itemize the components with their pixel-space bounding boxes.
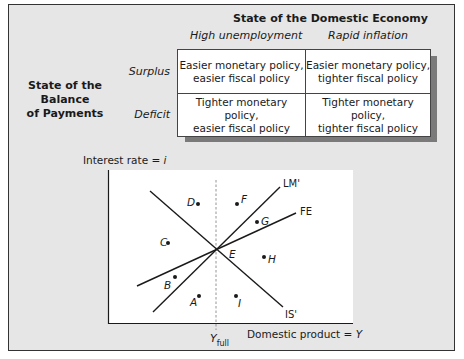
point-c-label: C — [160, 236, 168, 248]
point-d-dot — [196, 202, 200, 206]
point-h-label: H — [268, 253, 276, 265]
x-axis-var: Y — [356, 328, 364, 340]
fe-curve — [137, 213, 296, 286]
x-axis-label: Domestic product = Y — [247, 328, 364, 340]
x-axis-label-text: Domestic product = — [247, 328, 356, 340]
y-full-subscript: full — [217, 339, 229, 348]
is-lm-fe-graph: A B C D F G H I E LM' FE IS' Yfull Domes… — [0, 0, 464, 359]
point-f-dot — [235, 202, 239, 206]
point-g-label: G — [261, 215, 269, 227]
lm-curve-label: LM' — [283, 178, 300, 189]
point-a-label: A — [189, 296, 197, 308]
is-curve-label: IS' — [285, 309, 297, 320]
fe-curve-label: FE — [300, 206, 312, 217]
point-d-label: D — [187, 196, 195, 208]
point-b-dot — [173, 275, 177, 279]
intersection-e-label: E — [229, 248, 236, 260]
point-a-dot — [197, 294, 201, 298]
y-full-label: Yfull — [210, 332, 229, 348]
point-b-label: B — [164, 279, 171, 291]
point-i-label: I — [238, 297, 241, 309]
point-h-dot — [262, 255, 266, 259]
point-g-dot — [255, 220, 259, 224]
point-f-label: F — [241, 193, 248, 205]
